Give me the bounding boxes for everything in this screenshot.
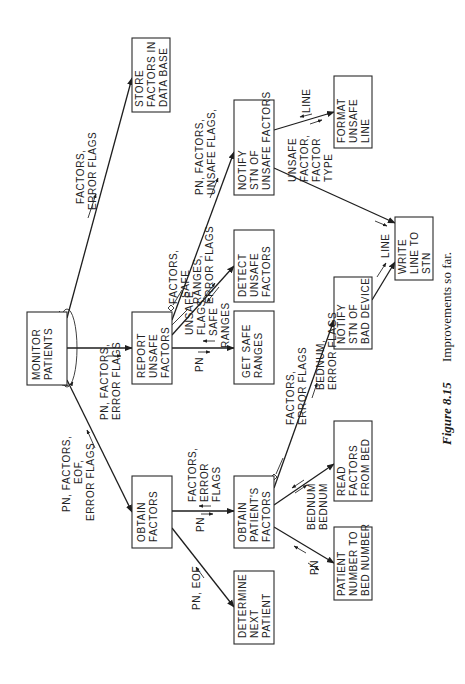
flow-label-bad-write: LINE	[380, 233, 391, 258]
module-get-safe-ranges[interactable]: GET SAFE RANGES	[234, 311, 274, 384]
flow-label-rep-notify: PN, FACTORS, UNSAFE FLAGS,	[194, 108, 217, 195]
decision-diamond-report	[168, 305, 174, 311]
flow-arrow-write-a	[375, 221, 387, 226]
flow-label-rep-get-in: PN	[194, 357, 205, 372]
flow-label-mp-report: PN, FACTORS, ERROR FLAGS	[99, 340, 122, 420]
module-obtain-factors[interactable]: OBTAIN FACTORS	[132, 476, 172, 548]
structure-chart: MONITOR PATIENTS STORE FACTORS IN DATA B…	[0, 0, 465, 684]
module-obtain-patients-factors[interactable]: OBTAIN PATIENT'S FACTORS	[234, 476, 274, 548]
svg-text:MONITOR PATIENTS: MONITOR PATIENTS	[31, 325, 54, 380]
svg-text:DETECT UNSAFE FACT: DETECT UNSAFE FACTORS	[237, 246, 272, 297]
module-store-factors[interactable]: STORE FACTORS IN DATA BASE	[132, 38, 170, 112]
flow-arrow-line-back	[300, 114, 312, 117]
flow-label-of-opf-out: FACTORS, ERROR FLAGS	[187, 444, 222, 502]
figure-number: Figure 8.15	[439, 382, 454, 446]
module-label: MONITOR	[31, 329, 42, 380]
flow-label-opf-bad: FACTORS, ERROR FLAGS	[285, 347, 308, 425]
flow-label-opf-read: BEDNUM	[306, 483, 317, 530]
module-write-line-to-stn[interactable]: WRITE LINE TO STN	[395, 217, 433, 280]
flow-arrow-bednum-back	[294, 546, 306, 553]
module-patient-number-to-bed[interactable]: PATIENT NUMBER TO BED NUMBER	[334, 523, 372, 600]
flow-label-notify-format-out: LINE	[301, 88, 312, 113]
call-line-determine-next	[172, 528, 234, 607]
module-determine-next-patient[interactable]: DETERMINE NEXT PATIENT	[234, 570, 274, 644]
flow-arrow-unsafe-factor	[310, 120, 322, 124]
flow-label-notify-format-in: UNSAFE FACTOR, FACTOR TYPE	[287, 131, 334, 182]
module-detect-unsafe[interactable]: DETECT UNSAFE FACTORS	[234, 230, 274, 302]
module-read-factors-from-bed[interactable]: READ FACTORS FROM BED	[334, 421, 372, 501]
figure-caption-text: Improvements so far.	[439, 252, 454, 362]
module-report-unsafe-factors[interactable]: REPORT UNSAFE FACTORS	[132, 312, 172, 384]
svg-text:REPORT UNSAFE FACT: REPORT UNSAFE FACTORS	[136, 327, 171, 378]
module-label: PATIENTS	[43, 328, 54, 380]
module-monitor-patients[interactable]: MONITOR PATIENTS	[27, 312, 67, 385]
flow-label-mp-obtain: PN, FACTORS, EOF, ERROR FLAGS	[61, 432, 96, 521]
flow-label-opf-read-in: BEDNUM, ERROR FLAGS	[315, 312, 338, 390]
flow-label-mp-store: FACTORS, ERROR FLAGS	[75, 132, 98, 210]
module-notify-bad-device[interactable]: NOTIFY STN OF BAD DEVICE	[334, 277, 372, 349]
call-line-format	[274, 112, 334, 130]
module-notify-unsafe[interactable]: NOTIFY STN OF UNSAFE FACTORS	[234, 91, 274, 195]
call-line-pn-to-bed	[274, 527, 334, 563]
figure-caption: Figure 8.15 Improvements so far.	[439, 252, 454, 446]
flow-arrow-line-bad	[377, 263, 386, 277]
flow-arrow-factors-read	[292, 480, 304, 488]
flow-label-of-opf-in: PN	[195, 517, 206, 532]
flow-label-opf-pn-out: BEDNUM	[318, 483, 329, 530]
flow-label-opf-pn-in: PN	[309, 560, 320, 575]
flow-label-of-det: PN, EOF	[191, 566, 202, 610]
module-format-unsafe-line[interactable]: FORMAT UNSAFE LINE	[334, 76, 372, 148]
